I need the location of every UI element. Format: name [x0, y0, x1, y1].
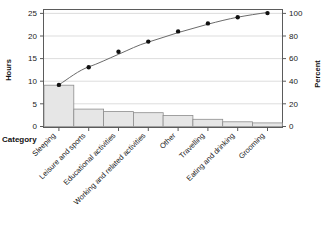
left-axis: 25 20 15 10 5 0 Hours: [4, 9, 44, 131]
cumulative-point-sleeping: [57, 83, 61, 87]
right-axis-title: Percent: [313, 60, 322, 88]
bar-sleeping: [44, 85, 74, 126]
category-label-other: Other: [158, 131, 178, 151]
pareto-chart: 25 20 15 10 5 0 Hours 100 80 60 40 20 0 …: [0, 0, 329, 225]
right-tick-label-80: 80: [289, 32, 298, 41]
bar-leisure-and-sports: [74, 109, 104, 126]
bar-working-and-related-activities: [133, 113, 163, 127]
category-axis: Category Sleeping Leisure and sports Edu…: [2, 127, 268, 207]
right-tick-label-100: 100: [289, 9, 303, 18]
left-tick-label-25: 25: [28, 9, 37, 18]
cumulative-point-educational-activities: [116, 50, 120, 54]
cumulative-point-other: [176, 29, 180, 33]
right-tick-label-20: 20: [289, 100, 298, 109]
bar-grooming: [253, 123, 283, 127]
left-tick-label-10: 10: [28, 77, 37, 86]
bar-travelling: [193, 119, 223, 126]
right-tick-label-0: 0: [289, 122, 294, 131]
left-tick-label-5: 5: [33, 100, 38, 109]
right-axis: 100 80 60 40 20 0 Percent: [282, 9, 322, 131]
category-axis-title: Category: [2, 135, 37, 144]
left-tick-label-20: 20: [28, 32, 37, 41]
bar-eating-and-drinking: [223, 122, 253, 127]
chart-canvas: 25 20 15 10 5 0 Hours 100 80 60 40 20 0 …: [0, 0, 329, 225]
right-tick-label-60: 60: [289, 54, 298, 63]
cumulative-point-grooming: [265, 11, 269, 15]
category-label-educational-activities: Educational activities: [62, 131, 118, 187]
bar-educational-activities: [104, 112, 134, 127]
right-tick-label-40: 40: [289, 77, 298, 86]
left-tick-label-15: 15: [28, 54, 37, 63]
bar-other: [163, 115, 193, 126]
cumulative-point-eating-and-drinking: [236, 15, 240, 19]
cumulative-point-leisure-and-sports: [87, 65, 91, 69]
left-axis-title: Hours: [4, 59, 13, 81]
category-label-travelling: Travelling: [177, 131, 206, 160]
cumulative-point-travelling: [206, 21, 210, 25]
cumulative-point-working-and-related-activities: [146, 39, 150, 43]
category-label-grooming: Grooming: [237, 131, 267, 161]
left-tick-label-0: 0: [33, 122, 38, 131]
